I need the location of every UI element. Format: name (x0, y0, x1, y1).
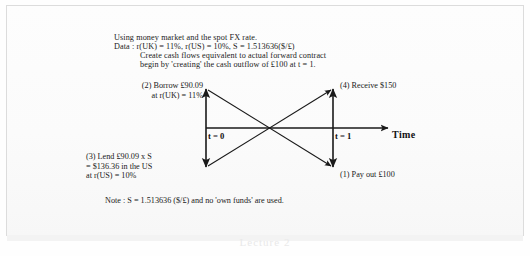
scanned-slide-page: Using money market and the spot FX rate.… (0, 0, 530, 256)
axis-label-time: Time (392, 129, 416, 140)
cash-flow-timeline-diagram (0, 0, 530, 256)
annotation-borrow: (2) Borrow £90.09 at r(UK) = 11% (105, 81, 203, 100)
annotation-lend: (3) Lend £90.09 x S = $136.36 in the US … (86, 152, 206, 181)
annotation-receive: (4) Receive $150 (340, 81, 396, 91)
axis-label-t1: t = 1 (335, 131, 351, 141)
background-bleed-text: Lecture 2 (0, 236, 530, 256)
axis-label-t0: t = 0 (208, 131, 224, 141)
annotation-payout: (1) Pay out £100 (340, 170, 395, 180)
footer-note: Note : S = 1.513636 ($/£) and no 'own fu… (105, 196, 284, 206)
